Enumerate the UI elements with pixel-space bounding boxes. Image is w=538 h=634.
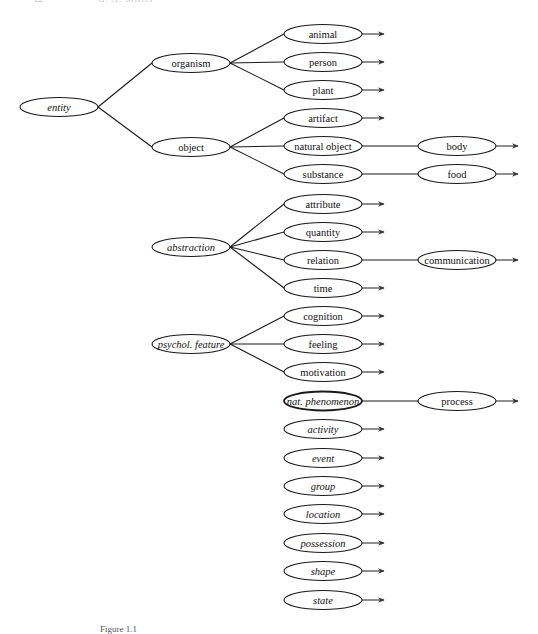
node-label: plant (313, 85, 334, 96)
node-state: state (284, 591, 362, 610)
node-label: state (313, 595, 333, 606)
node-label: possession (300, 538, 346, 549)
node-feeling: feeling (284, 335, 362, 354)
node-label: communication (424, 255, 490, 266)
node-cognition: cognition (284, 307, 362, 326)
node-communication: communication (418, 251, 496, 270)
node-relation: relation (284, 251, 362, 270)
edge-object-to-natural-object (230, 146, 284, 147)
node-label: process (441, 396, 473, 407)
node-location: location (284, 505, 362, 524)
node-event: event (284, 449, 362, 468)
node-body: body (418, 137, 496, 156)
node-label: shape (311, 566, 336, 577)
node-motivation: motivation (284, 363, 362, 382)
node-label: artifact (308, 113, 338, 124)
node-label: group (311, 481, 336, 492)
node-time: time (284, 279, 362, 298)
edge-entity-to-object (98, 107, 152, 147)
node-label: psychol. feature (157, 339, 225, 350)
node-possession: possession (284, 534, 362, 553)
node-nat-phenomenon: nat. phenomenon (284, 392, 362, 411)
node-label: quantity (306, 227, 341, 238)
nodes-layer: entityorganismobjectanimalpersonplantart… (20, 25, 496, 610)
node-label: entity (47, 102, 71, 113)
arrows-layer (362, 34, 518, 600)
node-process: process (418, 392, 496, 411)
node-activity: activity (284, 420, 362, 439)
node-object: object (152, 138, 230, 157)
edge-abstraction-to-quantity (230, 232, 284, 247)
edges-layer (98, 34, 418, 401)
node-label: time (314, 283, 333, 294)
edge-object-to-substance (230, 147, 284, 174)
node-label: activity (308, 424, 339, 435)
node-person: person (284, 53, 362, 72)
node-substance: substance (284, 165, 362, 184)
node-animal: animal (284, 25, 362, 44)
node-psychol-feature: psychol. feature (152, 335, 230, 354)
node-quantity: quantity (284, 223, 362, 242)
node-attribute: attribute (284, 195, 362, 214)
edge-organism-to-plant (230, 63, 284, 90)
edge-psychol-feature-to-cognition (230, 316, 284, 344)
node-label: substance (303, 169, 344, 180)
edge-object-to-artifact (230, 118, 284, 147)
node-label: organism (172, 58, 211, 69)
node-label: natural object (294, 141, 352, 152)
node-label: food (447, 169, 467, 180)
node-natural-object: natural object (284, 137, 362, 156)
node-label: relation (307, 255, 340, 266)
node-label: attribute (306, 199, 341, 210)
node-label: abstraction (167, 242, 215, 253)
node-label: body (447, 141, 469, 152)
node-shape: shape (284, 562, 362, 581)
node-abstraction: abstraction (152, 238, 230, 257)
edge-entity-to-organism (98, 63, 152, 107)
node-entity: entity (20, 98, 98, 117)
node-label: person (309, 57, 338, 68)
node-label: feeling (308, 339, 338, 350)
edge-abstraction-to-attribute (230, 204, 284, 247)
node-organism: organism (152, 54, 230, 73)
figure-caption: Figure 1.1 (100, 624, 137, 634)
node-label: cognition (303, 311, 343, 322)
node-label: motivation (300, 367, 346, 378)
edge-psychol-feature-to-motivation (230, 344, 284, 372)
node-plant: plant (284, 81, 362, 100)
node-group: group (284, 477, 362, 496)
node-food: food (418, 165, 496, 184)
node-artifact: artifact (284, 109, 362, 128)
node-label: event (312, 453, 335, 464)
node-label: nat. phenomenon (287, 396, 359, 407)
edge-organism-to-animal (230, 34, 284, 63)
node-label: location (306, 509, 340, 520)
node-label: object (178, 142, 204, 153)
edge-organism-to-person (230, 62, 284, 63)
node-label: animal (309, 29, 338, 40)
